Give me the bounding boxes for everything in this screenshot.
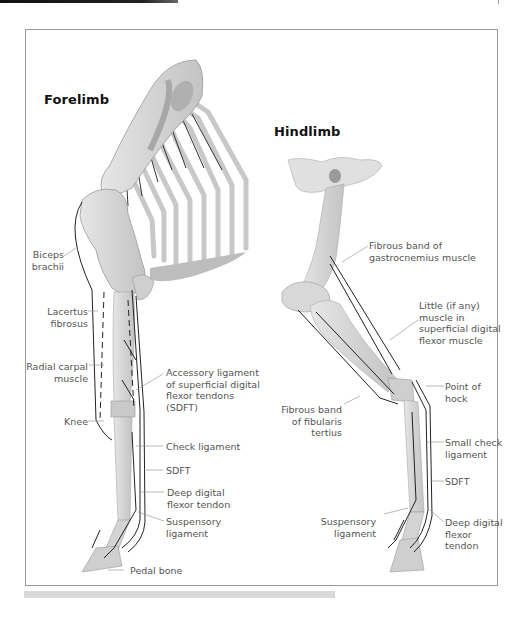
label-hindlimb-sdft: SDFT bbox=[445, 476, 469, 488]
label-radial-carpal-muscle: Radial carpal muscle bbox=[20, 361, 88, 384]
label-hindlimb-suspensory-ligament: Suspensory ligament bbox=[320, 516, 376, 539]
tibia bbox=[310, 300, 396, 392]
cannon-bone bbox=[114, 417, 132, 522]
label-little-muscle: Little (if any) muscle in superficial di… bbox=[419, 300, 501, 346]
femur bbox=[300, 184, 344, 296]
label-small-check-ligament: Small check ligament bbox=[445, 437, 502, 460]
label-fibrous-band-fibularis-tertius: Fibrous band of fibularis tertius bbox=[280, 404, 342, 439]
pastern bbox=[106, 520, 130, 550]
hock bbox=[388, 378, 414, 402]
label-forelimb-suspensory-ligament: Suspensory ligament bbox=[166, 516, 221, 539]
label-forelimb-deep-digital-flexor-tendon: Deep digital flexor tendon bbox=[167, 487, 230, 510]
hindlimb-illustration bbox=[282, 157, 444, 572]
label-point-of-hock: Point of hock bbox=[445, 381, 481, 404]
label-hindlimb-deep-digital-flexor-tendon: Deep digital flexor tendon bbox=[445, 517, 503, 552]
label-lacertus-fibrosus: Lacertus fibrosus bbox=[40, 306, 88, 329]
forelimb-title: Forelimb bbox=[44, 92, 109, 107]
label-pedal-bone: Pedal bone bbox=[130, 565, 182, 577]
label-biceps-brachii: Biceps brachii bbox=[26, 249, 64, 272]
carpus bbox=[111, 401, 135, 417]
label-forelimb-sdft: SDFT bbox=[166, 465, 190, 477]
label-knee: Knee bbox=[50, 416, 88, 428]
hindlimb-title: Hindlimb bbox=[274, 124, 340, 139]
radius bbox=[113, 292, 135, 402]
label-check-ligament: Check ligament bbox=[166, 441, 240, 453]
label-fibrous-band-gastrocnemius: Fibrous band of gastrocnemius muscle bbox=[369, 240, 476, 263]
hind-hoof bbox=[390, 538, 424, 572]
pedal-bone-shape bbox=[82, 546, 122, 572]
label-accessory-ligament: Accessory ligament of superficial digita… bbox=[166, 367, 260, 413]
